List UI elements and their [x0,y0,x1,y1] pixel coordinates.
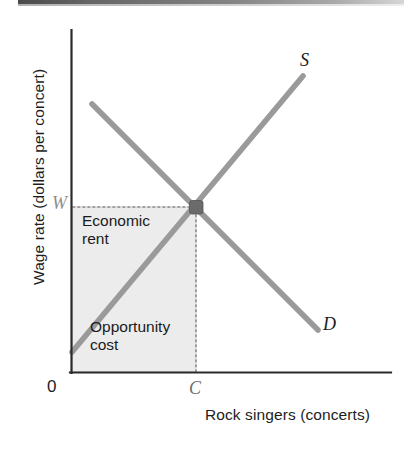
wage-rate-tick-label: W [52,193,67,214]
economic-rent-label-line2: rent [82,230,150,248]
supply-curve-label: S [300,50,309,71]
opportunity-cost-label: Opportunity cost [90,318,170,354]
quantity-tick-label: C [189,378,201,399]
y-axis-label: Wage rate (dollars per concert) [30,52,48,302]
origin-label: 0 [47,377,56,397]
demand-curve-label: D [323,314,336,335]
x-axis-label: Rock singers (concerts) [205,406,370,424]
economic-rent-label: Economic rent [82,212,150,248]
equilibrium-marker [190,201,204,215]
opportunity-cost-label-line1: Opportunity [90,318,170,335]
supply-demand-figure: Wage rate (dollars per concert) Rock sin… [0,0,404,453]
opportunity-cost-label-line2: cost [90,336,170,354]
plot-area [0,0,404,453]
economic-rent-label-line1: Economic [82,212,150,229]
